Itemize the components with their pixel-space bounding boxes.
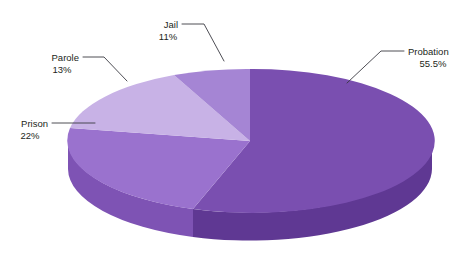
label-probation-name: Probation	[408, 46, 449, 57]
pie-chart-figure: Probation 55.5% Prison 22% Parole 13% Ja…	[0, 0, 464, 261]
label-jail-name: Jail	[164, 19, 178, 30]
pie-chart-canvas: Probation 55.5% Prison 22% Parole 13% Ja…	[0, 0, 464, 261]
label-parole-name: Parole	[52, 52, 79, 63]
label-jail-percent: 11%	[159, 31, 178, 42]
label-prison-name: Prison	[21, 118, 48, 129]
pie-top-faces	[67, 69, 435, 213]
label-parole-percent: 13%	[52, 64, 72, 75]
label-probation-percent: 55.5%	[420, 58, 447, 69]
label-prison-percent: 22%	[20, 130, 40, 141]
